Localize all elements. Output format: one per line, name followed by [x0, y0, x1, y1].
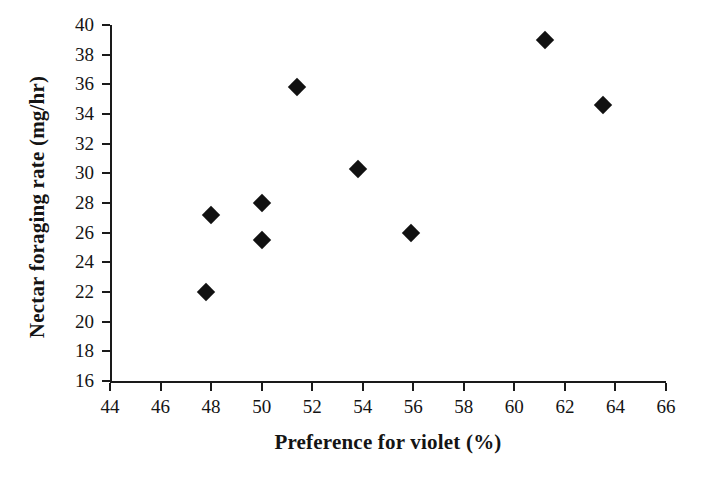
x-tick-label: 44: [88, 397, 132, 416]
data-point-marker: [197, 283, 215, 301]
x-tick-label: 58: [442, 397, 486, 416]
x-tick-mark: [513, 383, 515, 391]
x-tick-label: 60: [492, 397, 536, 416]
y-tick-mark: [102, 83, 110, 85]
y-tick-mark: [102, 113, 110, 115]
x-tick-mark: [614, 383, 616, 391]
data-point-marker: [594, 96, 612, 114]
y-tick-label: 32: [54, 134, 94, 153]
y-tick-label: 22: [54, 282, 94, 301]
y-tick-mark: [102, 54, 110, 56]
y-tick-mark: [102, 202, 110, 204]
data-point-marker: [252, 231, 270, 249]
x-tick-label: 62: [543, 397, 587, 416]
x-tick-mark: [362, 383, 364, 391]
x-tick-mark: [261, 383, 263, 391]
x-tick-mark: [665, 383, 667, 391]
y-tick-label: 26: [54, 223, 94, 242]
y-tick-mark: [102, 261, 110, 263]
y-tick-label: 38: [54, 45, 94, 64]
x-tick-mark: [564, 383, 566, 391]
x-tick-mark: [160, 383, 162, 391]
y-tick-label: 18: [54, 341, 94, 360]
data-point-marker: [202, 206, 220, 224]
y-tick-mark: [102, 172, 110, 174]
x-tick-label: 52: [290, 397, 334, 416]
x-axis-label: Preference for violet (%): [110, 430, 666, 455]
y-tick-label: 16: [54, 371, 94, 390]
x-tick-label: 50: [240, 397, 284, 416]
plot-area: 16182022242628303234363840 4446485052545…: [110, 25, 666, 383]
y-tick-label: 20: [54, 312, 94, 331]
y-tick-label: 40: [54, 15, 94, 34]
x-axis-line: [110, 381, 666, 383]
y-tick-mark: [102, 232, 110, 234]
data-point-marker: [348, 160, 366, 178]
x-tick-label: 64: [593, 397, 637, 416]
y-tick-label: 30: [54, 163, 94, 182]
x-tick-label: 66: [644, 397, 688, 416]
data-point-marker: [252, 194, 270, 212]
scatter-plot-figure: Nectar foraging rate (mg/hr) Preference …: [0, 0, 712, 484]
y-tick-mark: [102, 143, 110, 145]
x-tick-mark: [109, 383, 111, 391]
x-tick-label: 46: [139, 397, 183, 416]
x-tick-label: 48: [189, 397, 233, 416]
y-tick-mark: [102, 321, 110, 323]
x-tick-mark: [463, 383, 465, 391]
y-tick-mark: [102, 24, 110, 26]
data-point-marker: [402, 223, 420, 241]
y-tick-mark: [102, 291, 110, 293]
y-tick-mark: [102, 380, 110, 382]
x-tick-label: 54: [341, 397, 385, 416]
y-tick-label: 34: [54, 104, 94, 123]
x-tick-mark: [412, 383, 414, 391]
y-tick-label: 28: [54, 193, 94, 212]
data-point-marker: [288, 78, 306, 96]
y-axis-line: [110, 25, 112, 383]
x-tick-mark: [210, 383, 212, 391]
x-tick-label: 56: [391, 397, 435, 416]
x-tick-mark: [311, 383, 313, 391]
data-point-marker: [535, 31, 553, 49]
y-tick-label: 24: [54, 252, 94, 271]
y-tick-mark: [102, 350, 110, 352]
y-tick-label: 36: [54, 74, 94, 93]
